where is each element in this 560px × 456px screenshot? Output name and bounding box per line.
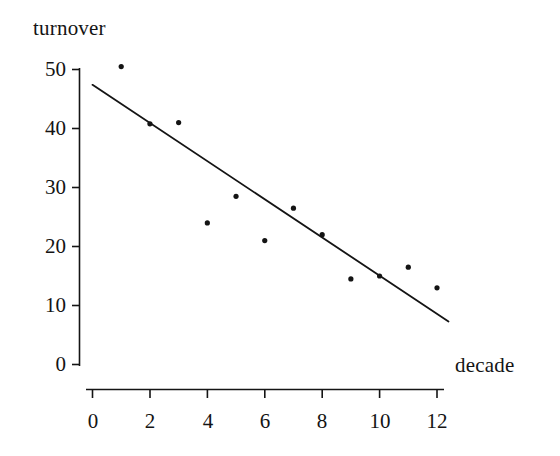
data-point (348, 276, 353, 281)
data-point (262, 238, 267, 243)
x-tick-label-8: 8 (317, 411, 328, 432)
x-axis-title: decade (455, 355, 514, 376)
plot-canvas (0, 0, 560, 456)
x-tick-label-2: 2 (145, 411, 156, 432)
x-tick-label-0: 0 (88, 411, 99, 432)
y-tick-label-40: 40 (45, 118, 66, 139)
data-point (406, 265, 411, 270)
data-point (434, 285, 439, 290)
x-tick-label-10: 10 (370, 411, 391, 432)
data-point (291, 206, 296, 211)
data-point (233, 194, 238, 199)
x-tick-label-6: 6 (260, 411, 271, 432)
data-point (320, 232, 325, 237)
x-axis-group (86, 390, 444, 399)
data-point (377, 273, 382, 278)
regression-trendline (93, 85, 449, 322)
data-point (205, 220, 210, 225)
data-point (176, 120, 181, 125)
y-axis-group (72, 68, 80, 366)
scatter-plot-figure: turnover decade 50 40 30 20 10 0 0 2 4 6… (0, 0, 560, 456)
data-point-markers (119, 64, 440, 290)
y-tick-label-20: 20 (45, 236, 66, 257)
y-axis-title: turnover (33, 18, 106, 39)
x-tick-label-12: 12 (427, 411, 448, 432)
data-point (119, 64, 124, 69)
data-point (147, 121, 152, 126)
y-tick-label-50: 50 (45, 59, 66, 80)
y-tick-label-30: 30 (45, 177, 66, 198)
y-tick-label-0: 0 (56, 354, 67, 375)
x-tick-label-4: 4 (203, 411, 214, 432)
y-tick-label-10: 10 (45, 295, 66, 316)
